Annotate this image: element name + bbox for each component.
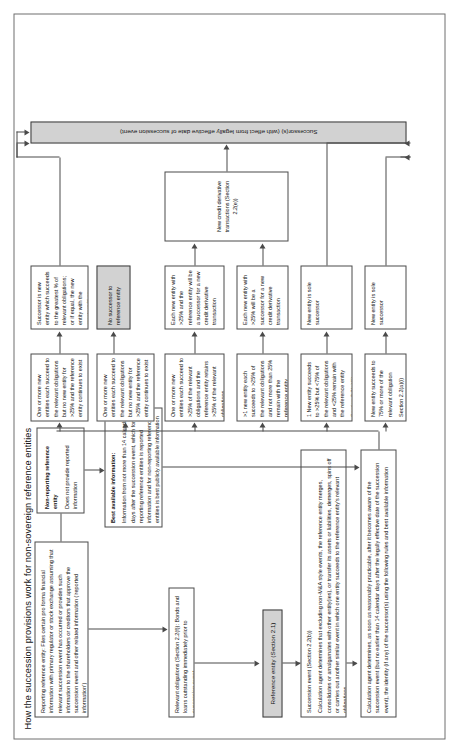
arrowhead-b6-out: [56, 331, 62, 336]
branch-test-6-text: One or more new entities each succeed to…: [34, 358, 84, 417]
arrowhead-nonreporting-best: [99, 467, 104, 473]
connector-out6-v3: [16, 131, 26, 132]
arrowhead-b1-out: [382, 331, 388, 336]
page-title: How the succession provisions work for n…: [22, 427, 32, 729]
node-relevant-obligations-label: Relevant obligations (Section 2.2(f)): B…: [172, 592, 194, 713]
node-succession-event-heading: Succession event (Section 2.2(b)): [304, 454, 312, 713]
node-successors-label: Successor(s) (with effect from legally e…: [35, 127, 401, 136]
branch-test-2-section: Section 2.2(a)(ii): [348, 358, 352, 417]
branch-test-2[interactable]: 1 New entity succeeds to >25% but <75% o…: [300, 353, 352, 421]
connector-b1-out: [385, 335, 386, 353]
branch-outcome-4-text: Each new entity with >25% and the refere…: [168, 270, 218, 325]
arrowhead-out2-successors: [404, 140, 409, 146]
connector-out4-newtx: [194, 247, 195, 265]
connector-b3-out: [262, 335, 263, 353]
connector-out2-v2: [326, 142, 410, 143]
branch-test-5-text: One or more new entities each succeed to…: [100, 358, 150, 417]
branch-test-3[interactable]: >1 new entity each succeeds to >25% of t…: [236, 353, 288, 421]
connector-calcagent-spine: [378, 431, 379, 449]
branch-test-1[interactable]: New entity succeeds to 75% or more of th…: [364, 353, 406, 421]
diagram-viewport: How the succession provisions work for n…: [0, 0, 461, 753]
branch-outcome-6-text: Successor is new entity which succeeds t…: [34, 270, 88, 325]
arrowhead-b2-out: [323, 331, 329, 336]
branch-test-4-text: One or more new entities each succeed to…: [168, 358, 224, 417]
connector-b6-out: [59, 335, 60, 353]
connector-b4-out: [194, 335, 195, 353]
branch-test-5[interactable]: One or more new entities each succeed to…: [96, 353, 154, 421]
arrowhead-spine-b4: [191, 422, 197, 427]
node-new-credit-derivative-transactions[interactable]: New credit derivative transactions (Sect…: [164, 171, 288, 241]
node-non-reporting-desc: Does not provide reported information: [62, 432, 79, 509]
branch-outcome-2-text: New entity is sole successor: [304, 270, 321, 325]
connector-relobl-refentity: [194, 662, 254, 663]
branch-test-6-section: Section 2.2(a)(vii): [87, 358, 89, 417]
arrowhead-out4-newtx: [191, 243, 197, 248]
branch-test-4[interactable]: One or more new entities each succeed to…: [164, 353, 224, 421]
connector-out6-h3: [16, 131, 17, 157]
connector-reporting-down: [88, 628, 164, 629]
branch-outcome-5-no-successor[interactable]: No successor to reference entity: [96, 265, 130, 329]
node-reporting-reference-entity-label: Reporting reference entity: Files certai…: [38, 546, 88, 713]
connector-newtx-successors: [226, 147, 227, 171]
node-reference-entity[interactable]: Reference entity (Section 2.1): [262, 609, 282, 717]
branch-outcome-1[interactable]: New entity is sole successor: [364, 265, 406, 329]
arrowhead-out6-successors: [24, 140, 29, 146]
arrowhead-refentity-succession: [295, 660, 300, 666]
arrowhead-out3-newtx: [259, 243, 265, 248]
node-succession-event[interactable]: Succession event (Section 2.2(b)) Calcul…: [300, 449, 346, 717]
branch-outcome-6[interactable]: Successor is new entity which succeeds t…: [30, 265, 88, 329]
arrowhead-newtx-successors: [223, 144, 229, 149]
node-reference-entity-label: Reference entity (Section 2.1): [267, 614, 276, 713]
node-calculation-agent-determines[interactable]: Calculation agent determines, as soon as…: [360, 449, 396, 717]
arrowhead-spine-b5: [122, 422, 128, 427]
arrowhead-out1-successors: [404, 154, 409, 160]
branch-test-5-section: Section 2.2(a)(vi): [153, 358, 155, 417]
branch-outcome-1-text: New entity is sole successor: [368, 270, 385, 325]
node-best-available-heading: Best available information:: [108, 412, 116, 523]
node-non-reporting-title: Non-reporting reference entity: [42, 432, 59, 509]
node-non-reporting-reference-entity[interactable]: Non-reporting reference entity Does not …: [36, 427, 84, 513]
branch-outcome-3-text: Each new entity with >25% will be a succ…: [240, 270, 281, 325]
connector-branch-spine: [56, 430, 378, 431]
branch-test-2-text: 1 New entity succeeds to >25% but <75% o…: [304, 358, 345, 417]
connector-out6-route: [59, 157, 60, 265]
arrowhead-best-calcagent: [354, 464, 359, 470]
connector-reporting-nonreporting: [60, 513, 61, 541]
node-new-credit-derivative-label: New credit derivative transactions (Sect…: [214, 176, 239, 237]
arrowhead-spine-b3: [259, 422, 265, 427]
connector-out6-v: [16, 156, 59, 157]
arrowhead-succession-calcagent: [352, 660, 357, 666]
branch-outcome-4[interactable]: Each new entity with >25% and the refere…: [164, 265, 224, 329]
connector-best-calcagent: [162, 466, 356, 467]
arrowhead-reporting-down: [162, 626, 167, 632]
branch-test-3-text: >1 new entity each succeeds to >25% of t…: [240, 358, 288, 417]
node-reporting-reference-entity[interactable]: Reporting reference entity: Files certai…: [34, 541, 88, 717]
arrowhead-spine-b6: [56, 422, 62, 427]
connector-b5-out: [113, 335, 114, 353]
arrowhead-b5-out: [110, 331, 116, 336]
connector-b2-out: [326, 335, 327, 353]
branch-test-1-text: New entity succeeds to 75% or more of th…: [368, 358, 393, 417]
node-best-available-information[interactable]: Best available information: Information …: [104, 407, 162, 527]
connector-out2-route: [326, 143, 327, 265]
node-relevant-obligations[interactable]: Relevant obligations (Section 2.2(f)): B…: [168, 587, 194, 717]
branch-outcome-5-text: No successor to reference entity: [105, 270, 122, 325]
node-succession-event-body: Calculation agent determines that exclud…: [315, 454, 346, 713]
arrowhead-spine-b2: [323, 422, 329, 427]
node-successors[interactable]: Successor(s) (with effect from legally e…: [30, 121, 406, 143]
connector-out1-route: [385, 157, 386, 265]
arrowhead-relobl-refentity: [254, 660, 259, 666]
node-calculation-agent-body: Calculation agent determines, as soon as…: [364, 454, 389, 713]
branch-test-1-section: Section 2.2(a)(i): [396, 358, 404, 417]
arrowhead-b4-out: [191, 331, 197, 336]
branch-outcome-2[interactable]: New entity is sole successor: [300, 265, 352, 329]
diagram-canvas: How the succession provisions work for n…: [0, 0, 461, 753]
branch-test-6[interactable]: One or more new entities each succeed to…: [30, 353, 88, 421]
branch-outcome-3[interactable]: Each new entity with >25% will be a succ…: [236, 265, 288, 329]
arrowhead-spine-b1: [382, 422, 388, 427]
arrowhead-b3-out: [259, 331, 265, 336]
connector-out3-newtx: [262, 247, 263, 265]
